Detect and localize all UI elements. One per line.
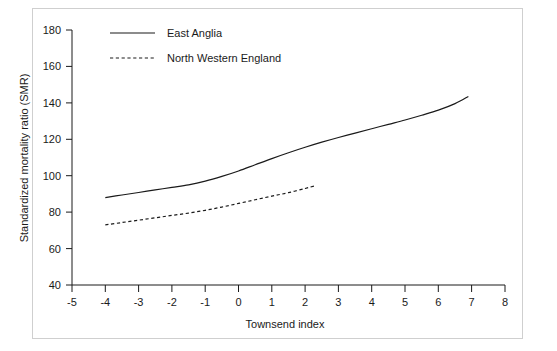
y-tick-label-120: 120 bbox=[43, 133, 61, 145]
x-tick-label-7: 7 bbox=[469, 296, 475, 308]
y-tick-label-140: 140 bbox=[43, 97, 61, 109]
y-tick-label-40: 40 bbox=[49, 279, 61, 291]
x-axis-ticks bbox=[72, 285, 505, 292]
x-tick-label-3: 3 bbox=[335, 296, 341, 308]
y-tick-label-160: 160 bbox=[43, 60, 61, 72]
x-tick-label--5: -5 bbox=[67, 296, 77, 308]
x-tick-label-1: 1 bbox=[269, 296, 275, 308]
y-axis-title: Standardized mortality ratio (SMR) bbox=[18, 74, 30, 243]
chart-legend: East Anglia North Western England bbox=[110, 27, 281, 64]
x-tick-label-6: 6 bbox=[435, 296, 441, 308]
series-group bbox=[105, 96, 468, 224]
y-axis-ticks bbox=[66, 30, 72, 285]
line-chart: 180 160 140 120 100 80 60 40 Standardize… bbox=[0, 0, 557, 351]
x-tick-label--1: -1 bbox=[200, 296, 210, 308]
x-axis-title: Townsend index bbox=[246, 318, 325, 330]
y-tick-label-60: 60 bbox=[49, 243, 61, 255]
y-axis-tick-labels: 180 160 140 120 100 80 60 40 bbox=[43, 24, 61, 291]
figure-container: 180 160 140 120 100 80 60 40 Standardize… bbox=[0, 0, 557, 351]
y-tick-label-80: 80 bbox=[49, 206, 61, 218]
y-tick-label-100: 100 bbox=[43, 170, 61, 182]
x-tick-label--2: -2 bbox=[167, 296, 177, 308]
x-tick-label-2: 2 bbox=[302, 296, 308, 308]
x-axis: -5 -4 -3 -2 -1 0 1 2 3 4 5 6 7 8 Townsen… bbox=[67, 285, 508, 330]
series-line-east-anglia bbox=[105, 96, 468, 197]
x-tick-label-5: 5 bbox=[402, 296, 408, 308]
x-tick-label-4: 4 bbox=[369, 296, 375, 308]
x-axis-tick-labels: -5 -4 -3 -2 -1 0 1 2 3 4 5 6 7 8 bbox=[67, 296, 508, 308]
x-tick-label-0: 0 bbox=[235, 296, 241, 308]
legend-label-north-western-england: North Western England bbox=[167, 52, 281, 64]
y-axis: 180 160 140 120 100 80 60 40 Standardize… bbox=[18, 24, 72, 291]
x-tick-label--3: -3 bbox=[134, 296, 144, 308]
series-line-north-western-england bbox=[105, 186, 315, 225]
x-tick-label-8: 8 bbox=[502, 296, 508, 308]
legend-label-east-anglia: East Anglia bbox=[167, 27, 223, 39]
y-tick-label-180: 180 bbox=[43, 24, 61, 36]
x-tick-label--4: -4 bbox=[100, 296, 110, 308]
